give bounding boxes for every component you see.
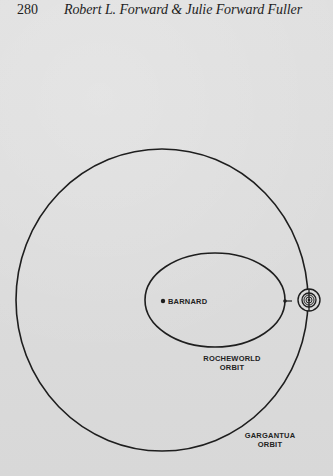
gargantua-orbit-label-line1: GARGANTUA xyxy=(245,431,296,440)
rocheworld-orbit xyxy=(145,253,285,347)
book-page: 280 Robert L. Forward & Julie Forward Fu… xyxy=(0,0,333,476)
gargantua-orbit-label-line2: ORBIT xyxy=(258,440,283,449)
rocheworld-marker-icon xyxy=(283,299,292,303)
gargantua-planet-icon xyxy=(298,289,320,311)
orbit-diagram: BARNARD ROCHEWORLD ORBIT GARGANTUA ORBIT xyxy=(0,0,333,476)
barnard-label: BARNARD xyxy=(168,297,208,306)
rocheworld-orbit-label-line2: ORBIT xyxy=(220,363,245,372)
barnard-star-icon xyxy=(161,299,165,303)
rocheworld-orbit-label-line1: ROCHEWORLD xyxy=(203,354,261,363)
